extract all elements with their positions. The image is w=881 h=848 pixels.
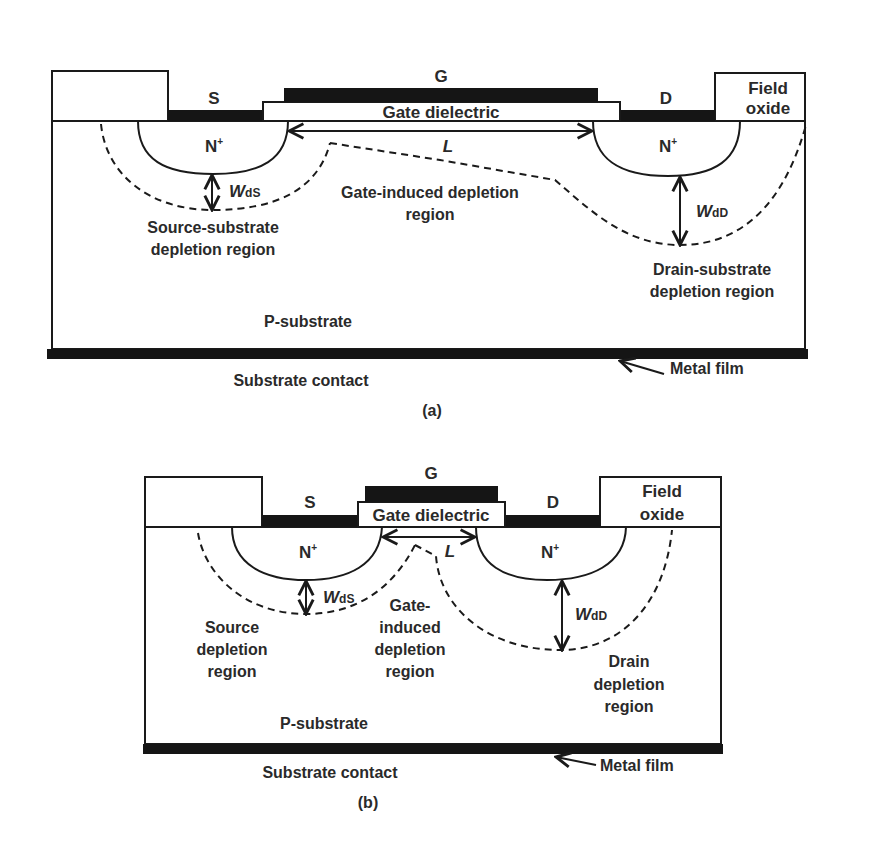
drain-depletion-label-3: region <box>605 698 654 715</box>
substrate-contact-label: Substrate contact <box>233 372 369 389</box>
field-oxide-label-2: oxide <box>746 99 790 118</box>
field-oxide-left <box>145 477 262 527</box>
gate-label: G <box>424 464 437 483</box>
field-oxide-label-1: Field <box>748 79 788 98</box>
channel-length-label: L <box>445 542 455 561</box>
source-contact <box>262 515 358 527</box>
gate-electrode <box>365 486 498 502</box>
drain-depletion-label-2: depletion <box>593 676 664 693</box>
figure-b-short-channel-mosfet: G S D Gate dielectric Field oxide N+ N+ … <box>143 464 723 811</box>
gate-depletion-label-2: induced <box>379 619 440 636</box>
figure-a-long-channel-mosfet: G S D Gate dielectric Field oxide N+ N+ … <box>47 67 808 419</box>
metal-film <box>47 349 808 359</box>
source-depletion-label-2: depletion region <box>151 241 275 258</box>
figure-a-caption: (a) <box>422 402 442 419</box>
gate-depletion-label-4: region <box>386 663 435 680</box>
source-depletion-label-2: depletion <box>196 641 267 658</box>
metal-film <box>143 744 723 754</box>
source-depletion-label-1: Source-substrate <box>147 219 279 236</box>
drain-label: D <box>547 493 559 512</box>
gate-depletion-label-1: Gate-induced depletion <box>341 184 519 201</box>
gate-dielectric-label: Gate dielectric <box>382 103 499 122</box>
gate-depletion-label-3: depletion <box>374 641 445 658</box>
channel-length-label: L <box>443 137 453 156</box>
source-label: S <box>208 89 219 108</box>
figure-b-caption: (b) <box>358 794 378 811</box>
gate-depletion-label-1: Gate- <box>390 597 431 614</box>
gate-label: G <box>434 67 447 86</box>
source-depletion-label-3: region <box>208 663 257 680</box>
metal-film-pointer <box>620 361 664 374</box>
gate-depletion-label-2: region <box>406 206 455 223</box>
source-label: S <box>304 493 315 512</box>
drain-depletion-label-2: depletion region <box>650 283 774 300</box>
field-oxide-label-2: oxide <box>640 505 684 524</box>
drain-contact <box>620 110 715 121</box>
source-contact <box>168 110 264 121</box>
drain-depletion-label-1: Drain-substrate <box>653 261 771 278</box>
field-oxide-label-1: Field <box>642 482 682 501</box>
field-oxide-left <box>52 71 168 121</box>
gate-dielectric-label: Gate dielectric <box>372 506 489 525</box>
substrate-contact-label: Substrate contact <box>262 764 398 781</box>
metal-film-label: Metal film <box>600 757 674 774</box>
gate-electrode <box>284 88 598 102</box>
p-substrate-label: P-substrate <box>264 313 352 330</box>
metal-film-label: Metal film <box>670 360 744 377</box>
source-depletion-label-1: Source <box>205 619 259 636</box>
drain-label: D <box>660 89 672 108</box>
drain-contact <box>505 515 600 527</box>
p-substrate-label: P-substrate <box>280 715 368 732</box>
drain-depletion-label-1: Drain <box>609 653 650 670</box>
metal-film-pointer <box>556 757 596 765</box>
